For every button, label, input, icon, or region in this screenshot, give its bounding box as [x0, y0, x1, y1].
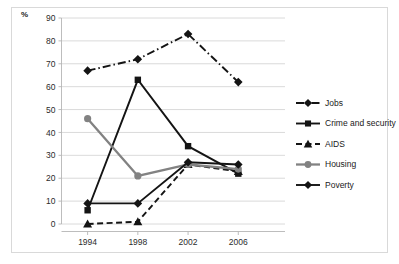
data-point-marker: [134, 172, 141, 179]
y-axis-tick-label: 0: [51, 219, 56, 229]
legend-label: Housing: [325, 159, 356, 169]
y-axis-tick-label: 60: [46, 82, 56, 92]
legend-label: Jobs: [325, 98, 343, 108]
series-housing: [84, 115, 242, 179]
x-axis-ticks-group: 1994199820022006: [78, 232, 248, 247]
legend-item-housing[interactable]: Housing: [296, 159, 356, 169]
legend-label: Crime and security: [325, 118, 397, 128]
series-jobs: [83, 30, 242, 87]
x-axis-tick-label: 1994: [78, 237, 97, 247]
data-point-marker: [135, 77, 141, 83]
gridlines-group: [62, 18, 286, 232]
y-axis-tick-label: 40: [46, 128, 56, 138]
y-axis-tick-label: 70: [46, 59, 56, 69]
legend-item-crime-and-security[interactable]: Crime and security: [296, 118, 397, 128]
x-axis-tick-label: 1998: [128, 237, 147, 247]
data-point-marker: [134, 55, 143, 64]
data-point-marker: [185, 143, 191, 149]
series-poverty: [83, 158, 242, 208]
data-point-marker: [84, 115, 91, 122]
legend-item-aids[interactable]: AIDS: [296, 139, 345, 149]
data-point-marker: [305, 161, 312, 168]
y-axis-tick-label: 20: [46, 173, 56, 183]
legend-item-jobs[interactable]: Jobs: [296, 98, 343, 108]
data-point-marker: [133, 217, 142, 225]
chart-figure: % 0102030405060708090 1994199820022006 J…: [0, 0, 399, 264]
data-point-marker: [84, 207, 90, 213]
x-axis-tick-label: 2006: [229, 237, 248, 247]
data-point-marker: [305, 120, 311, 126]
y-axis-tick-label: 10: [46, 196, 56, 206]
series-line: [88, 119, 239, 176]
data-point-marker: [304, 181, 312, 189]
data-point-marker: [304, 99, 312, 107]
x-axis-tick-label: 2002: [179, 237, 198, 247]
legend-label: Poverty: [325, 180, 355, 190]
series-line: [88, 164, 239, 224]
legend-label: AIDS: [325, 139, 345, 149]
y-axis-tick-label: 80: [46, 36, 56, 46]
y-axis-tick-label: 90: [46, 13, 56, 23]
chart-legend: JobsCrime and securityAIDSHousingPoverty: [296, 98, 397, 190]
legend-item-poverty[interactable]: Poverty: [296, 180, 355, 190]
data-point-marker: [83, 66, 92, 75]
line-chart-plot: 0102030405060708090 1994199820022006 Job…: [0, 0, 399, 264]
y-axis-tick-label: 50: [46, 105, 56, 115]
y-axis-tick-label: 30: [46, 150, 56, 160]
y-axis-ticks-group: 0102030405060708090: [46, 13, 61, 229]
data-series-group: [83, 30, 243, 228]
